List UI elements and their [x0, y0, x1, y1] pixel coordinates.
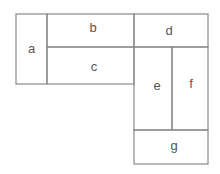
region-c: c: [47, 47, 134, 84]
region-g: g: [134, 130, 208, 164]
region-f: f: [172, 47, 208, 130]
region-label-f: f: [189, 76, 193, 91]
region-d: d: [134, 14, 208, 47]
region-label-a: a: [28, 41, 36, 56]
region-a: a: [16, 14, 47, 84]
partition-diagram: a b c d e f g: [0, 0, 220, 174]
region-label-b: b: [89, 20, 96, 35]
region-label-g: g: [170, 138, 177, 153]
region-label-d: d: [165, 23, 172, 38]
region-label-c: c: [91, 59, 98, 74]
region-e: e: [134, 47, 172, 130]
region-label-e: e: [153, 78, 160, 93]
region-b: b: [47, 14, 134, 47]
